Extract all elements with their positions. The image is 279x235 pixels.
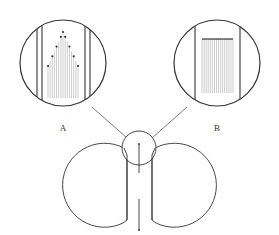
center-dot-top xyxy=(138,143,140,145)
label-a: A xyxy=(60,123,67,133)
center-dot-bottom xyxy=(138,229,140,231)
diagram-canvas: A B xyxy=(0,0,279,235)
right-lobe xyxy=(152,143,216,227)
magnified-panel-a xyxy=(20,10,106,110)
connector-a xyxy=(92,107,127,138)
magnified-panel-b xyxy=(174,10,260,110)
fibers-straight xyxy=(202,39,233,93)
left-lobe xyxy=(63,143,127,227)
fibers-triangular xyxy=(48,32,78,98)
label-b: B xyxy=(214,123,220,133)
magnifier-circle-b xyxy=(174,20,260,106)
structure-outline xyxy=(63,131,217,230)
connector-b xyxy=(152,107,187,138)
